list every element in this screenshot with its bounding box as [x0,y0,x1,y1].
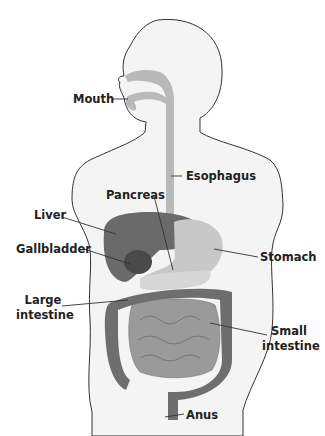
label-large-intestine: Large intestine [16,293,70,323]
label-pancreas: Pancreas [106,188,165,203]
label-small-intestine: Small intestine [262,324,316,354]
label-large-intestine-line2: intestine [16,308,70,323]
label-mouth: Mouth [73,92,114,107]
label-large-intestine-line1: Large [16,293,70,308]
label-anus: Anus [186,408,218,423]
label-stomach: Stomach [260,250,316,265]
label-liver: Liver [34,208,66,223]
gallbladder-shape [124,250,152,274]
label-small-intestine-line2: intestine [262,339,316,354]
label-esophagus: Esophagus [186,169,256,184]
label-small-intestine-line1: Small [262,324,316,339]
label-gallbladder: Gallbladder [16,242,91,257]
